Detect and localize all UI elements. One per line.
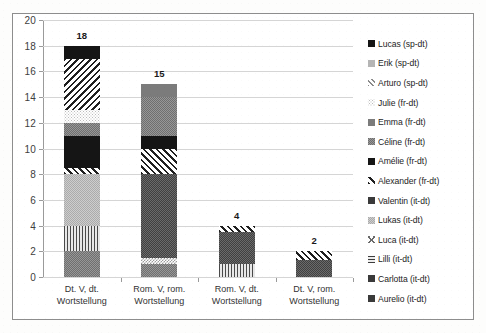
legend-label: Amélie (fr-dt)	[378, 156, 427, 166]
legend-label: Lucas (sp-dt)	[378, 39, 428, 49]
x-axis-category-label: Dt. V, rom. Wortstellung	[289, 284, 339, 307]
y-axis-tick-label: 12	[24, 117, 36, 128]
legend-item[interactable]: Luca (it-dt)	[368, 230, 472, 250]
bar-segment[interactable]	[219, 264, 255, 277]
bar-segment[interactable]	[64, 46, 100, 59]
legend-swatch-icon	[368, 40, 375, 47]
bar-total-label: 2	[312, 235, 317, 246]
legend-swatch-icon	[368, 99, 375, 106]
y-axis-tick-label: 14	[24, 92, 36, 103]
legend-swatch-icon	[368, 119, 375, 126]
legend-item[interactable]: Lucas (sp-dt)	[368, 34, 472, 54]
bar-segment[interactable]	[296, 251, 332, 260]
x-axis-category-label: Rom. V, dt. Wortstellung	[212, 284, 262, 307]
y-axis-tick-label: 0	[30, 272, 36, 283]
y-axis-tick	[39, 97, 43, 98]
legend-swatch-icon	[368, 138, 375, 145]
legend-swatch-icon	[368, 158, 375, 165]
legend-item[interactable]: Julie (fr-dt)	[368, 93, 472, 113]
y-axis-tick	[39, 20, 43, 21]
legend-item[interactable]: Arturo (sp-dt)	[368, 73, 472, 93]
bar-segment[interactable]	[141, 97, 177, 136]
legend-item[interactable]: Amélie (fr-dt)	[368, 152, 472, 172]
legend-swatch-icon	[368, 79, 375, 86]
bar-segment[interactable]	[141, 136, 177, 149]
legend-item[interactable]: Valentin (it-dt)	[368, 191, 472, 211]
bar-total-label: 18	[76, 30, 87, 41]
y-axis-tick-label: 2	[30, 246, 36, 257]
legend-label: Aurelio (it-dt)	[378, 294, 426, 304]
legend-label: Céline (fr-dt)	[378, 137, 425, 147]
y-axis-tick	[39, 123, 43, 124]
bar-segment[interactable]	[64, 226, 100, 252]
x-axis-tick	[353, 278, 354, 282]
legend-swatch-icon	[368, 236, 375, 243]
legend-label: Valentin (it-dt)	[378, 196, 430, 206]
legend-label: Carlotta (it-dt)	[378, 274, 430, 284]
x-axis-tick	[276, 278, 277, 282]
legend-swatch-icon	[368, 60, 375, 67]
legend-swatch-icon	[368, 197, 375, 204]
legend-item[interactable]: Emma (fr-dt)	[368, 112, 472, 132]
bar-total-label: 4	[234, 210, 239, 221]
legend-item[interactable]: Carlotta (it-dt)	[368, 269, 472, 289]
y-axis-tick	[39, 174, 43, 175]
x-axis-tick	[198, 278, 199, 282]
gridline	[43, 20, 353, 21]
x-axis-category-label: Rom. V, rom. Wortstellung	[133, 284, 185, 307]
legend-item[interactable]: Aurelio (it-dt)	[368, 289, 472, 309]
bar-segment[interactable]	[64, 123, 100, 136]
legend-swatch-icon	[368, 275, 375, 282]
bar-segment[interactable]	[296, 260, 332, 277]
chart-screenshot: 02468101214161820 181542 Dt. V, dt. Wort…	[0, 0, 486, 333]
stacked-bar[interactable]	[219, 226, 255, 277]
stacked-bar[interactable]	[64, 46, 100, 277]
legend-label: Emma (fr-dt)	[378, 117, 426, 127]
x-axis-category-label: Dt. V, dt. Wortstellung	[57, 284, 107, 307]
bar-total-label: 15	[154, 68, 165, 79]
bar-segment[interactable]	[64, 110, 100, 123]
legend-label: Alexander (fr-dt)	[378, 176, 439, 186]
y-axis-tick	[39, 71, 43, 72]
bar-segment[interactable]	[64, 136, 100, 168]
stacked-bar[interactable]	[296, 251, 332, 277]
legend-label: Luca (it-dt)	[378, 235, 418, 245]
bar-segment[interactable]	[64, 251, 100, 277]
plot-area: 02468101214161820 181542 Dt. V, dt. Wort…	[43, 20, 353, 278]
y-axis-tick-label: 6	[30, 194, 36, 205]
legend-item[interactable]: Alexander (fr-dt)	[368, 171, 472, 191]
y-axis-tick-label: 10	[24, 143, 36, 154]
legend-item[interactable]: Erik (sp-dt)	[368, 54, 472, 74]
y-axis-tick-label: 16	[24, 66, 36, 77]
y-axis-tick-label: 18	[24, 40, 36, 51]
legend-label: Arturo (sp-dt)	[378, 78, 428, 88]
chart-plot-frame: 02468101214161820 181542 Dt. V, dt. Wort…	[12, 13, 474, 320]
y-axis-tick	[39, 226, 43, 227]
legend-swatch-icon	[368, 217, 375, 224]
legend-label: Lukas (it-dt)	[378, 215, 423, 225]
bar-segment[interactable]	[219, 232, 255, 264]
y-axis-tick	[39, 277, 43, 278]
legend-item[interactable]: Céline (fr-dt)	[368, 132, 472, 152]
y-axis-tick	[39, 149, 43, 150]
bar-segment[interactable]	[141, 174, 177, 258]
legend-label: Erik (sp-dt)	[378, 58, 419, 68]
bar-segment[interactable]	[141, 149, 177, 175]
legend-item[interactable]: Lukas (it-dt)	[368, 210, 472, 230]
legend-swatch-icon	[368, 177, 375, 184]
y-axis-tick-label: 20	[24, 15, 36, 26]
legend-label: Lilli (it-dt)	[378, 254, 412, 264]
y-axis-tick-label: 4	[30, 220, 36, 231]
legend-item[interactable]: Lilli (it-dt)	[368, 250, 472, 270]
stacked-bar[interactable]	[141, 84, 177, 277]
legend-swatch-icon	[368, 295, 375, 302]
y-axis-tick	[39, 46, 43, 47]
y-axis-tick-label: 8	[30, 169, 36, 180]
bar-segment[interactable]	[64, 59, 100, 110]
bar-segment[interactable]	[64, 174, 100, 225]
y-axis-tick	[39, 251, 43, 252]
x-axis-tick	[121, 278, 122, 282]
bar-segment[interactable]	[141, 84, 177, 97]
chart-legend: Lucas (sp-dt)Erik (sp-dt)Arturo (sp-dt)J…	[368, 34, 472, 308]
bar-segment[interactable]	[141, 264, 177, 277]
